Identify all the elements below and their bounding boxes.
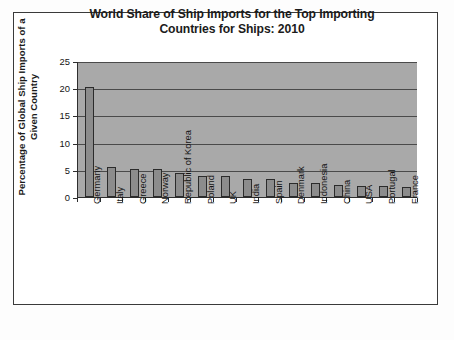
bar-slot [237, 62, 260, 197]
bar-slot [327, 62, 350, 197]
x-axis-tick-label: India [251, 184, 261, 204]
x-axis-tick-label: Republic of Korea [183, 130, 193, 204]
bar-slot [259, 62, 282, 197]
x-axis-tick-label: France [410, 175, 420, 204]
y-axis-tick-label: 10 [48, 139, 70, 149]
x-axis-tick-label: USA [364, 185, 374, 204]
x-axis-tick-label: Norway [160, 172, 170, 204]
y-axis-title: Percentage of Global Ship Imports of a G… [16, 1, 40, 213]
chart-title: World Share of Ship Imports for the Top … [46, 7, 418, 37]
bar-slot [350, 62, 373, 197]
y-axis-tick-label: 5 [48, 166, 70, 176]
x-axis-tick-label: Spain [274, 180, 284, 204]
plot-area [77, 62, 417, 198]
x-axis-tick-mark [77, 198, 78, 202]
x-axis-tick-label: Poland [206, 175, 216, 204]
bar-series [78, 62, 417, 197]
y-axis-tick-label: 0 [48, 193, 70, 203]
x-axis-tick-label: Indonesia [319, 164, 329, 204]
x-axis-tick-label: UK [228, 191, 238, 204]
bar-slot [214, 62, 237, 197]
chart-page: World Share of Ship Imports for the Top … [0, 0, 454, 340]
y-axis-title-line-1: Percentage of Global Ship Imports of a [16, 19, 27, 196]
x-axis-tick-label: Italy [115, 187, 125, 204]
chart-title-line-2: Countries for Ships: 2010 [46, 22, 418, 37]
y-axis-tick-label: 20 [48, 84, 70, 94]
y-axis-title-line-2: Given Country [28, 1, 40, 213]
x-axis-tick-label: Greece [138, 174, 148, 205]
y-axis-tick-label: 25 [48, 57, 70, 67]
x-axis-tick-label: Portugal [387, 169, 397, 204]
x-axis-tick-label: Denmark [296, 166, 306, 204]
x-axis-tick-label: China [342, 180, 352, 204]
x-axis-tick-label: Germany [92, 166, 102, 204]
bar-slot [101, 62, 124, 197]
chart-title-line-1: World Share of Ship Imports for the Top … [89, 7, 374, 21]
y-axis-tick-label: 15 [48, 111, 70, 121]
